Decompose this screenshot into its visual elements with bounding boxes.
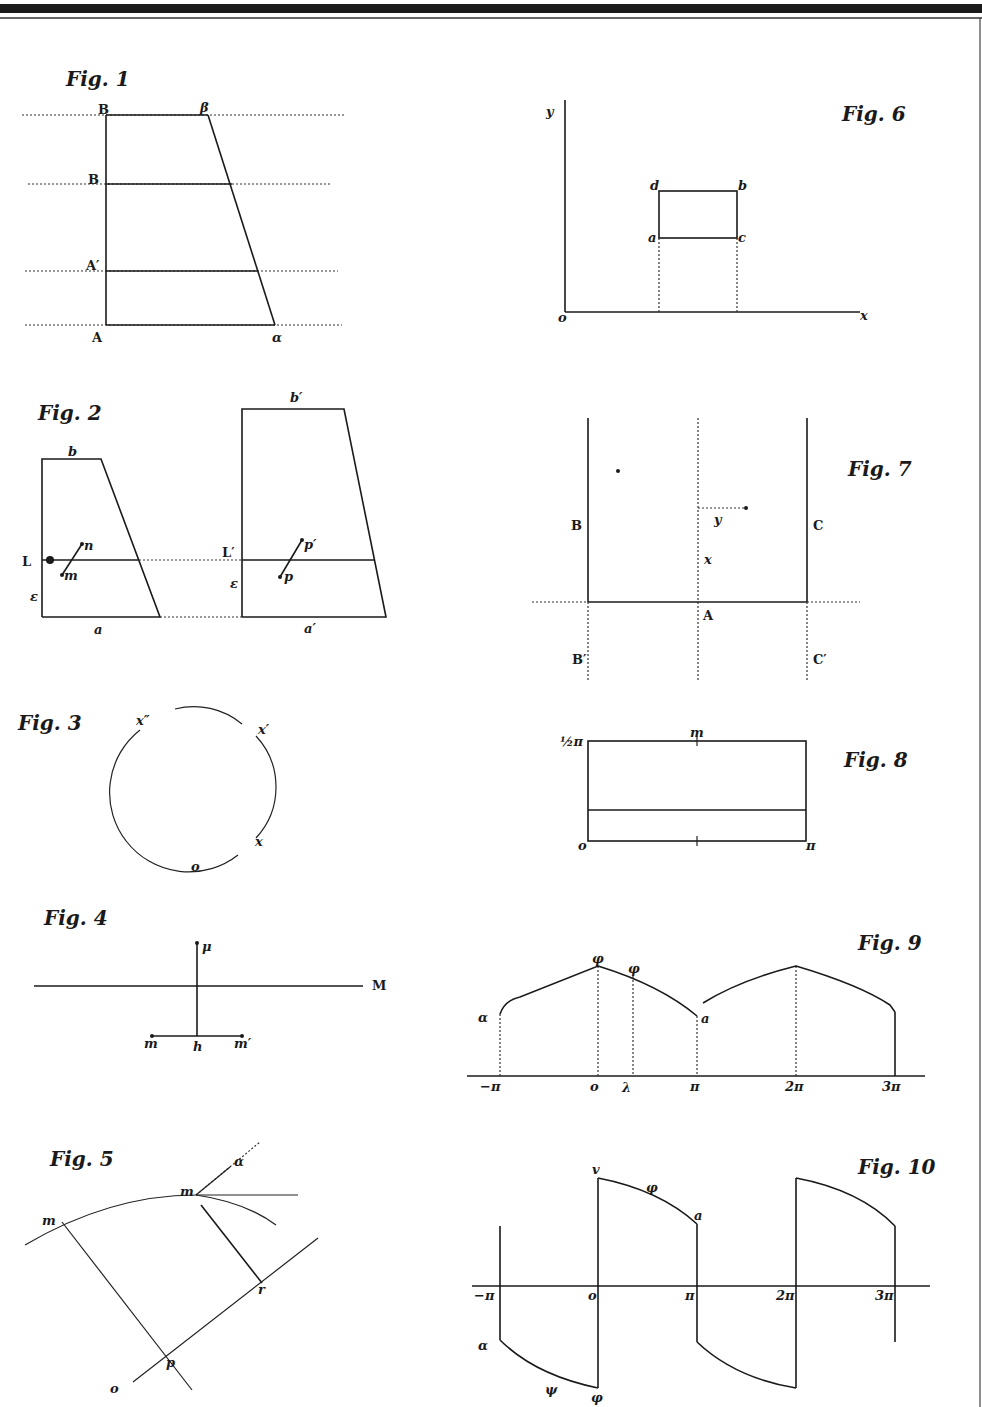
fig3-label-o: o: [191, 859, 200, 874]
fig1-label-A: A: [91, 330, 103, 345]
fig10-tick-pi: π: [684, 1288, 695, 1303]
fig5-title: Fig. 5: [49, 1147, 114, 1171]
figure-1: Fig. 1 B β B A′ A α: [22, 67, 345, 345]
fig5-label-alpha: α: [234, 1154, 244, 1169]
fig9-tick-2pi: 2π: [784, 1079, 804, 1094]
fig10-title: Fig. 10: [857, 1155, 936, 1179]
fig7-label-B: B: [571, 518, 582, 533]
fig9-label-phi2: φ: [628, 961, 640, 976]
fig7-label-B-prime: B′: [572, 652, 587, 667]
fig4-label-m-prime: m′: [234, 1036, 252, 1051]
fig10-label-psi: ψ: [545, 1382, 558, 1397]
figure-6: Fig. 6 y d b a c o x: [545, 100, 906, 325]
fig3-label-x-prime: x′: [257, 722, 270, 737]
fig2-left-label-L: L: [22, 554, 31, 569]
fig1-label-B-mid: B: [88, 172, 99, 187]
fig6-label-o: o: [558, 310, 567, 325]
fig1-label-A-prime: A′: [85, 258, 100, 273]
fig10-tick-minus-pi: −π: [474, 1288, 495, 1303]
fig1-label-beta: β: [199, 100, 209, 115]
fig2-left-label-m: m: [64, 568, 78, 583]
fig3-label-x-dprime: x″: [135, 713, 150, 728]
fig2-right-label-b-prime: b′: [290, 390, 303, 405]
fig9-title: Fig. 9: [857, 931, 922, 955]
fig10-label-phi-up: φ: [646, 1180, 658, 1195]
fig9-tick-3pi: 3π: [882, 1079, 901, 1094]
fig4-label-M: M: [372, 978, 386, 993]
fig4-label-mu: μ: [202, 939, 212, 954]
fig6-title: Fig. 6: [841, 102, 906, 126]
fig4-title: Fig. 4: [43, 906, 108, 930]
figure-3: Fig. 3 x″ x′ x o: [17, 707, 276, 874]
fig7-label-C: C: [813, 518, 823, 533]
fig9-tick-lambda: λ: [621, 1080, 631, 1095]
fig2-right-label-epsilon: ε: [230, 576, 238, 591]
fig6-label-y: y: [545, 104, 555, 119]
fig5-label-m-top: m: [180, 1184, 194, 1199]
figure-8: Fig. 8 ½π m o π: [560, 725, 908, 853]
fig9-label-alpha: α: [478, 1010, 488, 1025]
fig8-label-m: m: [690, 725, 704, 740]
fig9-label-phi1: φ: [592, 951, 604, 966]
plate-border: [0, 4, 982, 1407]
fig6-label-x: x: [859, 308, 868, 323]
fig2-right-label-p: p: [284, 569, 293, 584]
fig10-label-v: v: [592, 1162, 600, 1177]
fig2-right-label-a-prime: a′: [304, 621, 316, 636]
fig10-tick-2pi: 2π: [775, 1288, 795, 1303]
fig8-title: Fig. 8: [843, 748, 908, 772]
fig5-label-o: o: [110, 1381, 119, 1396]
fig9-tick-minus-pi: −π: [480, 1079, 501, 1094]
fig6-label-c: c: [738, 230, 746, 245]
fig7-label-A: A: [702, 608, 714, 623]
fig8-label-half-pi: ½π: [560, 734, 584, 749]
fig5-label-m-left: m: [42, 1213, 56, 1228]
fig5-label-r: r: [258, 1282, 266, 1297]
fig2-left-label-epsilon: ε: [30, 589, 38, 604]
fig2-right-label-p-prime: p′: [304, 537, 317, 552]
figure-9: Fig. 9 α φ φ a −π o λ π 2π 3π: [467, 931, 925, 1095]
fig9-tick-pi: π: [689, 1079, 700, 1094]
fig2-right-label-L-prime: L′: [222, 545, 235, 560]
fig9-label-a: a: [701, 1011, 709, 1026]
fig1-title: Fig. 1: [65, 67, 130, 91]
fig3-label-x: x: [254, 834, 263, 849]
fig6-label-b: b: [738, 178, 747, 193]
fig10-label-alpha: α: [478, 1338, 488, 1353]
figure-7: Fig. 7 B C y x A B′ C′: [532, 418, 912, 682]
fig9-tick-o: o: [590, 1079, 599, 1094]
engraved-plate: Fig. 1 B β B A′ A α Fig. 2 b L n m ε a: [0, 0, 982, 1407]
fig2-left-label-a: a: [94, 622, 102, 637]
fig6-label-d: d: [650, 178, 659, 193]
fig2-title: Fig. 2: [37, 401, 102, 425]
fig6-label-a: a: [648, 230, 656, 245]
figure-2: Fig. 2 b L n m ε a b′ L′ p′ p ε a′: [22, 390, 386, 637]
fig10-label-phi-down: φ: [591, 1390, 603, 1405]
fig4-label-h: h: [193, 1039, 202, 1054]
fig2-left-label-b: b: [68, 444, 77, 459]
figure-10: Fig. 10 v φ a α ψ φ −π o π 2π 3π: [472, 1155, 936, 1405]
fig10-tick-o: o: [588, 1288, 597, 1303]
fig1-label-B-top: B: [98, 102, 109, 117]
fig7-label-y: y: [713, 512, 723, 527]
fig1-label-alpha: α: [272, 330, 282, 345]
fig2-left-label-n: n: [84, 538, 93, 553]
fig7-title: Fig. 7: [847, 457, 912, 481]
fig8-label-pi: π: [805, 838, 816, 853]
fig7-label-C-prime: C′: [813, 652, 827, 667]
fig8-label-o: o: [578, 838, 587, 853]
figure-5: Fig. 5 α m m r p o: [25, 1142, 318, 1396]
fig7-label-x: x: [703, 552, 712, 567]
fig4-label-m: m: [144, 1036, 158, 1051]
fig10-label-a: a: [694, 1208, 702, 1223]
fig5-label-p: p: [166, 1355, 175, 1370]
fig3-title: Fig. 3: [17, 711, 82, 735]
fig10-tick-3pi: 3π: [875, 1288, 894, 1303]
figure-4: Fig. 4 μ M m h m′: [34, 906, 386, 1054]
